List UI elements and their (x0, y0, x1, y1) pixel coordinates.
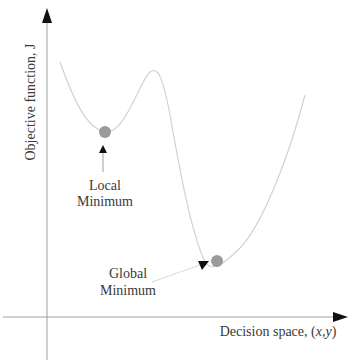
global-minimum-arrow-line (152, 265, 200, 282)
x-axis-label-suffix: ) (332, 324, 337, 340)
global-minimum-label-line1: Global (109, 266, 147, 281)
optimization-diagram: Local Minimum Global Minimum Objective f… (0, 0, 354, 360)
y-axis-arrowhead (42, 8, 52, 23)
global-minimum-label-line2: Minimum (100, 283, 156, 298)
local-minimum-marker (99, 126, 111, 138)
objective-curve (60, 62, 305, 267)
local-minimum-label-line1: Local (89, 178, 121, 193)
global-minimum-arrowhead (198, 261, 209, 270)
local-minimum-arrowhead (99, 145, 107, 153)
x-axis-label-var: x,y (315, 324, 333, 339)
x-axis-label-prefix: Decision space, ( (220, 324, 316, 340)
y-axis-label: Objective function, J (23, 43, 38, 161)
global-minimum-marker (211, 255, 223, 267)
x-axis-arrowhead (333, 312, 348, 322)
y-axis-label-text: Objective function, J (23, 43, 38, 161)
x-axis-label: Decision space, (x,y) (220, 324, 337, 340)
local-minimum-label-line2: Minimum (77, 194, 133, 209)
